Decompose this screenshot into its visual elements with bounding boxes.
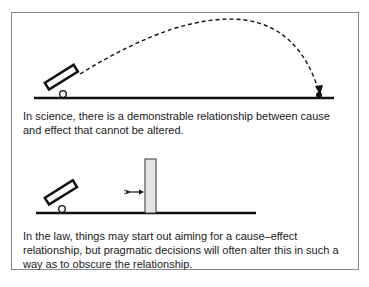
dashed-trajectory (80, 19, 319, 92)
wall (145, 159, 156, 213)
caption-law: In the law, things may start out aiming … (23, 229, 343, 271)
caption-science: In science, there is a demonstrable rela… (23, 109, 343, 137)
panel-law (36, 159, 256, 213)
cannon-icon (45, 65, 78, 98)
cannon-icon (45, 180, 77, 212)
arrow-icon (124, 190, 144, 195)
panel-science (34, 19, 334, 98)
target-ball (316, 92, 322, 98)
